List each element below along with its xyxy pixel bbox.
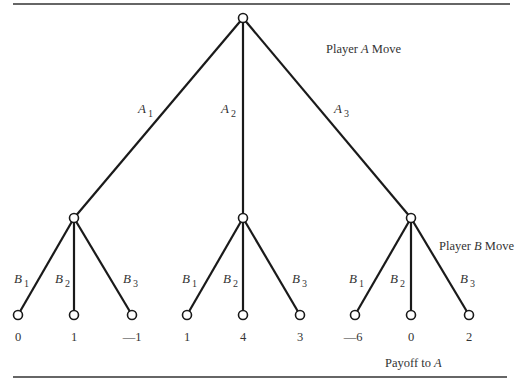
payoff-value: 1: [184, 331, 190, 344]
payoff-value: —6: [344, 331, 363, 344]
branch-letter: B: [55, 271, 63, 286]
payoff-value: 0: [15, 331, 21, 344]
branch-label-b3: B3: [123, 272, 138, 285]
branch-subscript: 2: [231, 108, 236, 119]
leaf-node: [239, 311, 248, 320]
branch-subscript: 3: [344, 108, 349, 119]
branch-label-b2: B2: [55, 272, 70, 285]
leaf-node: [183, 311, 192, 320]
branch-subscript: 3: [470, 278, 475, 289]
branch-subscript: 2: [65, 278, 70, 289]
label-player: A: [361, 42, 369, 56]
branch-label-b3: B3: [292, 272, 307, 285]
leaf-node: [465, 311, 474, 320]
payoff-value: —1: [123, 331, 142, 344]
branch-letter: B: [390, 271, 398, 286]
branch-letter: B: [14, 271, 22, 286]
branch-label-a3: A3: [334, 102, 349, 115]
payoff-value: 2: [466, 331, 472, 344]
branch-label-b2: B2: [223, 272, 238, 285]
label-text: Player: [326, 42, 361, 56]
branch-subscript: 1: [359, 278, 364, 289]
branch-b1-right: [355, 218, 411, 315]
branch-letter: B: [460, 271, 468, 286]
branch-b3-right: [411, 218, 469, 315]
branch-b1-middle: [187, 218, 243, 315]
leaf-node: [407, 311, 416, 320]
payoff-value: 1: [71, 331, 77, 344]
b-node-left: [70, 214, 79, 223]
branch-label-b1: B1: [182, 272, 197, 285]
branch-subscript: 1: [192, 278, 197, 289]
branch-subscript: 1: [148, 108, 153, 119]
branch-subscript: 2: [233, 278, 238, 289]
branch-label-b2: B2: [390, 272, 405, 285]
leaf-node: [14, 311, 23, 320]
branch-letter: B: [223, 271, 231, 286]
branch-b1-left: [18, 218, 74, 315]
branch-subscript: 1: [24, 278, 29, 289]
branch-a1: [74, 18, 243, 218]
branch-label-a1: A1: [138, 102, 153, 115]
game-tree-svg: [0, 0, 530, 387]
payoff-value: 4: [240, 331, 246, 344]
branch-label-b1: B1: [14, 272, 29, 285]
branch-letter: A: [221, 101, 229, 116]
branch-subscript: 3: [302, 278, 307, 289]
branch-label-b1: B1: [349, 272, 364, 285]
branch-b3-left: [74, 218, 132, 315]
player-b-move-label: Player B Move: [439, 240, 514, 253]
label-text: Move: [482, 239, 514, 253]
branch-label-a2: A2: [221, 102, 236, 115]
branch-letter: B: [182, 271, 190, 286]
root-node: [239, 14, 248, 23]
leaf-node: [128, 311, 137, 320]
label-player: B: [474, 239, 482, 253]
branch-letter: B: [123, 271, 131, 286]
branch-label-b3: B3: [460, 272, 475, 285]
label-text: Payoff to: [385, 356, 434, 370]
payoff-value: 3: [297, 331, 303, 344]
payoff-to-a-label: Payoff to A: [385, 357, 442, 370]
b-node-middle: [239, 214, 248, 223]
branch-subscript: 2: [400, 278, 405, 289]
branch-letter: A: [334, 101, 342, 116]
branch-subscript: 3: [133, 278, 138, 289]
leaf-node: [296, 311, 305, 320]
branch-letter: A: [138, 101, 146, 116]
branch-letter: B: [292, 271, 300, 286]
label-player: A: [434, 356, 442, 370]
label-text: Move: [369, 42, 401, 56]
payoff-value: 0: [408, 331, 414, 344]
branch-letter: B: [349, 271, 357, 286]
player-a-move-label: Player A Move: [326, 43, 401, 56]
label-text: Player: [439, 239, 474, 253]
leaf-node: [351, 311, 360, 320]
leaf-node: [70, 311, 79, 320]
b-node-right: [407, 214, 416, 223]
branch-b3-middle: [243, 218, 300, 315]
